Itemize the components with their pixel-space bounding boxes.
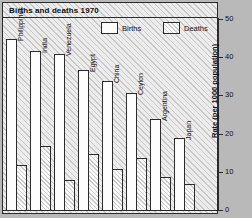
bar-deaths bbox=[160, 177, 171, 211]
y-tick-label: 0 bbox=[225, 205, 229, 214]
bar-deaths bbox=[64, 180, 75, 211]
bar-deaths bbox=[16, 165, 27, 211]
y-tick bbox=[218, 210, 223, 211]
bar-deaths bbox=[136, 158, 147, 211]
x-axis-baseline bbox=[3, 210, 217, 211]
bar-deaths bbox=[184, 184, 195, 211]
chart-root: Births and deaths 1970 Births Deaths Phi… bbox=[0, 0, 252, 218]
y-tick-label: 10 bbox=[225, 167, 233, 176]
y-tick-label: 20 bbox=[225, 129, 233, 138]
bar-group: China bbox=[102, 20, 124, 211]
y-axis: Rate (per 1000 population) 01020304050 bbox=[218, 18, 252, 211]
bar-group: Philippines bbox=[6, 20, 28, 211]
category-label: Japan bbox=[185, 121, 192, 140]
bar-group: Venezuela bbox=[54, 20, 76, 211]
y-tick-label: 50 bbox=[225, 14, 233, 23]
category-label: Egypt bbox=[89, 54, 96, 72]
bar-deaths bbox=[112, 169, 123, 211]
y-tick bbox=[218, 95, 223, 96]
category-label: Ceylon bbox=[137, 73, 144, 95]
bar-group: Argentina bbox=[150, 20, 172, 211]
y-tick bbox=[218, 134, 223, 135]
category-label: Argentina bbox=[161, 91, 168, 121]
bar-group: Japan bbox=[174, 20, 196, 211]
y-tick bbox=[218, 172, 223, 173]
bar-group: India bbox=[30, 20, 52, 211]
bar-groups: PhilippinesIndiaVenezuelaEgyptChinaCeylo… bbox=[3, 18, 199, 211]
category-label: Venezuela bbox=[65, 24, 72, 57]
y-tick bbox=[218, 19, 223, 20]
category-label: Philippines bbox=[17, 7, 24, 41]
category-label: China bbox=[113, 65, 120, 83]
y-tick bbox=[218, 57, 223, 58]
bar-group: Ceylon bbox=[126, 20, 148, 211]
y-tick-label: 40 bbox=[225, 52, 233, 61]
y-tick-label: 30 bbox=[225, 90, 233, 99]
plot-area: Births Deaths PhilippinesIndiaVenezuelaE… bbox=[3, 18, 217, 211]
bar-deaths bbox=[40, 146, 51, 211]
bar-group: Egypt bbox=[78, 20, 100, 211]
chart-title-bar: Births and deaths 1970 bbox=[2, 2, 218, 18]
bar-deaths bbox=[88, 154, 99, 211]
category-label: India bbox=[41, 37, 48, 52]
